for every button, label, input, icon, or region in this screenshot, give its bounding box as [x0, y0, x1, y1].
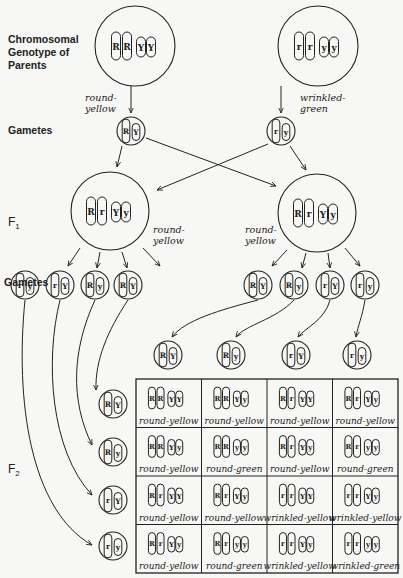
punnett-cell: RrYyround-yellow — [139, 533, 199, 571]
offspring-genotype: RRyy — [214, 436, 248, 458]
allele-R: R — [149, 442, 155, 451]
allele-Y: Y — [61, 282, 68, 291]
chromosome: Y — [129, 278, 137, 295]
offspring-genotype: rrYY — [279, 484, 313, 506]
chromosome: Y — [112, 202, 121, 222]
chromosome: y — [372, 536, 379, 552]
punnett-cell: RrYyround-yellow — [205, 484, 265, 522]
column-gamete-2: rY — [282, 341, 310, 369]
offspring-phenotype: wrinkled-yellow — [264, 561, 337, 571]
chromosome: R — [87, 197, 96, 225]
arrow-gamete-left-to-f1-left — [117, 146, 122, 167]
chromosome: r — [288, 484, 295, 506]
allele-r: r — [355, 442, 359, 451]
allele-r: r — [290, 539, 294, 548]
chromosome: R — [214, 436, 221, 458]
allele-R: R — [87, 207, 95, 217]
f1-right-phenotype: round- yellow — [245, 224, 277, 246]
punnett-cell: RRYyround-yellow — [205, 387, 265, 425]
chromosome: r — [279, 484, 286, 506]
chromosome: r — [279, 533, 286, 555]
allele-r: r — [281, 539, 285, 548]
allele-r: r — [281, 491, 285, 500]
chromosome: R — [285, 273, 293, 297]
row-gamete-2: rY — [99, 486, 127, 514]
chromosome: r — [157, 484, 164, 506]
allele-r: r — [100, 207, 105, 217]
offspring-genotype: RrYy — [148, 533, 182, 555]
chromosome: Y — [168, 488, 175, 504]
allele-r: r — [297, 42, 302, 52]
chromosome: Y — [259, 278, 267, 295]
allele-Y: Y — [169, 352, 176, 361]
row-gamete-0: RY — [99, 390, 127, 418]
parent-cell-wrinkled-green: rryy — [278, 6, 358, 86]
chromosome: R — [148, 436, 155, 458]
allele-y: y — [373, 395, 379, 404]
chromosome: y — [329, 204, 338, 224]
arrow-f1l-g3 — [143, 248, 160, 266]
f1-label: F1 — [8, 216, 20, 233]
f1-label-sub: 1 — [15, 222, 19, 231]
chromosome: Y — [233, 488, 240, 504]
genotype: RrYy — [294, 199, 338, 227]
chromosome: Y — [61, 278, 69, 295]
f1-right-phenotype-l2: yellow — [245, 235, 277, 246]
parent1-phenotype-l1: round- — [85, 92, 117, 103]
offspring-phenotype: round-yellow — [336, 416, 396, 426]
allele-Y: Y — [137, 43, 145, 53]
allele-Y: Y — [233, 492, 240, 501]
parents-label-line3: Parents — [8, 59, 79, 72]
allele-y: y — [122, 208, 129, 218]
chromosome: y — [364, 439, 371, 455]
allele-r: r — [290, 394, 294, 403]
arrow-right-g2-to-col2 — [298, 300, 330, 337]
offspring-phenotype: wrinkled-yellow — [329, 513, 402, 523]
parent2-phenotype: wrinkled- green — [300, 92, 346, 114]
arrow-right-g0-to-col0 — [172, 300, 258, 337]
chromosome: r — [287, 343, 295, 367]
chromosome: Y — [299, 536, 306, 552]
cell-membrane — [278, 174, 356, 252]
chromosome: R — [104, 392, 112, 416]
allele-y: y — [373, 540, 379, 549]
chromosome: R — [104, 440, 112, 464]
gamete-membrane — [114, 271, 142, 299]
f1-cell-left: RrYy — [71, 172, 149, 250]
chromosome: Y — [176, 391, 183, 407]
allele-R: R — [149, 491, 155, 500]
allele-R: R — [223, 442, 229, 451]
gamete-membrane — [282, 341, 310, 369]
chromosome: Y — [297, 348, 305, 365]
punnett-cell: rrYywrinkled-yellow — [264, 533, 337, 571]
allele-y: y — [115, 543, 121, 552]
allele-R: R — [250, 281, 257, 290]
allele-y: y — [234, 540, 240, 549]
allele-r: r — [53, 281, 58, 290]
chromosome: r — [345, 533, 352, 555]
allele-y: y — [329, 210, 336, 220]
chromosome: y — [372, 488, 379, 504]
f1-left-phenotype: round- yellow — [153, 224, 185, 246]
chromosome: y — [372, 391, 379, 407]
allele-r: r — [159, 539, 163, 548]
parent-gamete-right: ry — [267, 117, 295, 145]
chromosome: r — [223, 533, 230, 555]
gamete-membrane — [267, 117, 295, 145]
allele-R: R — [123, 127, 130, 136]
f1-left-phenotype-l1: round- — [153, 224, 185, 235]
allele-Y: Y — [114, 497, 121, 506]
chromosome: R — [122, 119, 130, 143]
allele-r: r — [106, 542, 111, 551]
gamete-membrane — [99, 486, 127, 514]
allele-Y: Y — [129, 282, 136, 291]
offspring-genotype: RRYy — [148, 436, 182, 458]
allele-y: y — [176, 443, 182, 452]
parents-label-line1: Chromosomal — [8, 33, 79, 46]
genotype: RRYY — [112, 32, 156, 60]
chromosome: y — [282, 124, 290, 141]
genotype: RrYy — [87, 197, 131, 225]
punnett-cell: Rryyround-green — [206, 533, 263, 571]
chromosome: R — [214, 533, 221, 555]
parent-cell-round-yellow: RRYY — [95, 6, 175, 86]
